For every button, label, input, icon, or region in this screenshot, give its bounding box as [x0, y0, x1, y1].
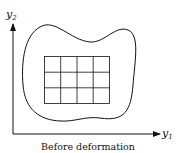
caption: Before deformation	[41, 141, 135, 152]
material-grid	[45, 57, 110, 104]
y2-axis-label: y2	[5, 8, 17, 22]
body-outline	[23, 25, 136, 121]
y1-axis-label: y1	[161, 127, 173, 141]
deformation-diagram: y2 y1 Before deformation	[0, 0, 180, 153]
